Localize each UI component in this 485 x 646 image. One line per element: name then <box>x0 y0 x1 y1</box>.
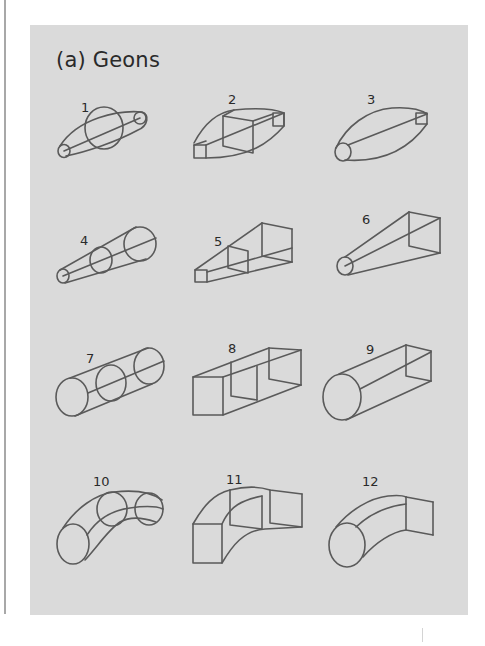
geon-8: 8 <box>193 341 301 415</box>
scan-artifact-mark <box>422 628 423 642</box>
geon-label: 6 <box>362 212 370 227</box>
geons-diagram: 1 2 3 4 5 <box>0 0 485 646</box>
geon-label: 5 <box>214 234 222 249</box>
geon-label: 7 <box>86 351 94 366</box>
geon-3: 3 <box>335 92 427 161</box>
geon-label: 9 <box>366 342 374 357</box>
geon-label: 12 <box>362 474 379 489</box>
geon-label: 8 <box>228 341 236 356</box>
geon-label: 1 <box>81 100 89 115</box>
geon-label: 3 <box>367 92 375 107</box>
geon-4: 4 <box>57 227 156 283</box>
geon-7: 7 <box>56 348 164 416</box>
geon-label: 2 <box>228 92 236 107</box>
geon-10: 10 <box>57 474 163 564</box>
geon-11: 11 <box>193 472 302 563</box>
geon-2: 2 <box>194 92 284 158</box>
geon-9: 9 <box>323 342 431 420</box>
geon-6: 6 <box>337 212 440 275</box>
geon-5: 5 <box>195 223 292 282</box>
geon-1: 1 <box>58 100 147 158</box>
geon-label: 11 <box>226 472 243 487</box>
geon-label: 4 <box>80 233 88 248</box>
geon-label: 10 <box>93 474 110 489</box>
geon-12: 12 <box>329 474 433 567</box>
